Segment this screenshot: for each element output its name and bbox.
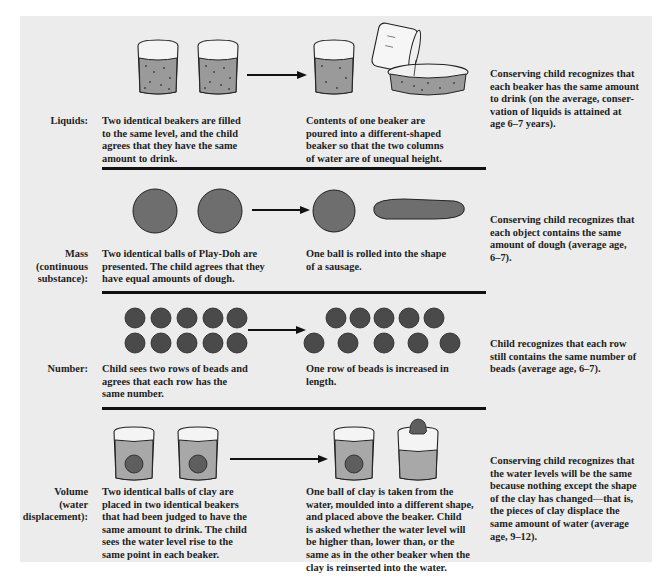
arrow-right-icon [248, 325, 306, 335]
number-result-text: Child recognizes that each rowstill cont… [490, 338, 636, 376]
bead-icon [125, 308, 145, 328]
bead-icon [203, 308, 223, 328]
bead-icon [424, 308, 444, 328]
mass-before-text: Two identical balls of Play-Doh areprese… [102, 248, 265, 286]
bead-icon [177, 308, 197, 328]
row-label-mass: Mass(continuoussubstance): [18, 248, 88, 286]
liquids-result-text: Conserving child recognizes thateach bea… [490, 68, 639, 131]
row-label-number: Number: [18, 363, 88, 376]
identical-beakers-illustration [136, 38, 286, 98]
beaker-icon [178, 427, 218, 480]
clay-lump-icon [409, 419, 426, 434]
bead-icon [151, 333, 171, 353]
dough-sausage-icon [374, 199, 465, 219]
bead-icon [374, 308, 394, 328]
beaker-icon [138, 40, 178, 94]
bead-icon [177, 333, 197, 353]
bead-icon [374, 333, 394, 353]
bead-icon [151, 308, 171, 328]
volume-after-text: One ball of clay is taken from thewater,… [306, 486, 474, 574]
beaker-icon [114, 427, 154, 480]
bead-icon [203, 333, 223, 353]
row-divider [102, 291, 486, 294]
arrow-right-icon [247, 70, 307, 80]
mass-after-text: One ball is rolled into the shapeof a sa… [306, 248, 446, 273]
number-before-text: Child sees two rows of beads andagrees t… [102, 363, 248, 401]
bead-icon [408, 333, 428, 353]
mass-result-text: Conserving child recognizes thateach obj… [490, 214, 634, 264]
arrow-right-icon [230, 454, 330, 464]
beaker-icon [198, 40, 238, 94]
liquids-before-text: Two identical beakers are filledto the s… [102, 115, 241, 165]
dough-ball-icon [313, 190, 355, 232]
liquids-after-text: Contents of one beaker arepoured into a … [306, 115, 443, 165]
clay-ball-icon [189, 455, 207, 473]
ball-and-sausage-illustration [314, 187, 474, 237]
row-label-volume: Volume(waterdisplacement): [18, 486, 88, 524]
beaker-icon [398, 427, 438, 480]
dough-ball-icon [133, 189, 177, 233]
bead-icon [125, 333, 145, 353]
bead-icon [304, 333, 324, 353]
arrow-right-icon [252, 205, 310, 215]
bead-icon [227, 333, 247, 353]
dough-ball-icon [198, 189, 242, 233]
bead-icon [440, 333, 460, 353]
beaker-icon [314, 40, 354, 94]
poured-beakers-illustration [310, 20, 470, 98]
bead-rows-before-illustration [124, 307, 248, 355]
row-divider [102, 407, 486, 410]
clay-ball-icon [345, 455, 363, 473]
volume-before-text: Two identical balls of clay areplaced in… [102, 486, 247, 562]
clay-reshaped-illustration [332, 418, 444, 484]
bead-icon [326, 308, 346, 328]
volume-result-text: Conserving child recognizes thatthe wate… [490, 455, 637, 543]
number-after-text: One row of beads is increased inlength. [306, 363, 449, 388]
row-divider [102, 167, 486, 170]
bead-icon [227, 308, 247, 328]
dough-balls-illustration [132, 187, 247, 237]
bead-icon [338, 333, 358, 353]
bead-icon [350, 308, 370, 328]
clay-ball-icon [125, 455, 143, 473]
bead-rows-after-illustration [302, 307, 462, 355]
bead-icon [399, 308, 419, 328]
row-label-liquids: Liquids: [18, 115, 88, 128]
beaker-icon [334, 427, 374, 480]
clay-in-beakers-illustration [112, 426, 222, 482]
